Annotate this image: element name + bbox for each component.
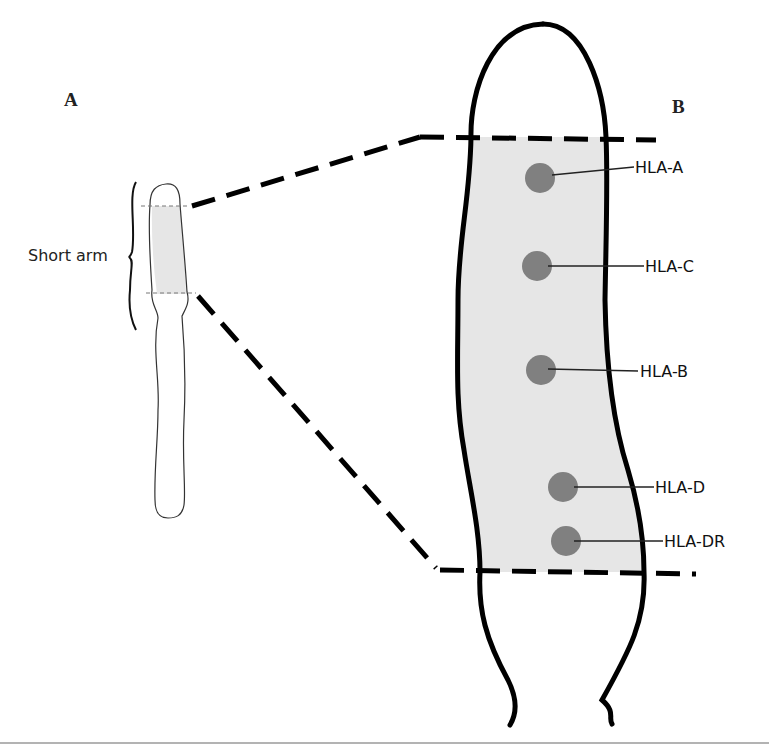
gene-dot-icon <box>525 163 555 193</box>
hla-chromosome-diagram: A B Short arm HLA-A HLA-C <box>0 0 769 748</box>
gene-dot-icon <box>522 251 552 281</box>
zoom-connector-bottom <box>198 296 436 568</box>
small-chromosome <box>141 184 196 518</box>
gene-label: HLA-D <box>655 478 705 497</box>
short-arm-brace <box>129 182 136 330</box>
gene-dot-icon <box>548 472 578 502</box>
zoom-connector-top <box>192 137 420 206</box>
gene-dot-icon <box>526 355 556 385</box>
gene-label: HLA-C <box>645 257 694 276</box>
gene-label: HLA-A <box>635 158 683 177</box>
mhc-top-boundary <box>420 137 656 140</box>
short-arm-label: Short arm <box>28 246 108 265</box>
panel-label-b: B <box>672 96 685 117</box>
panel-label-a: A <box>64 89 78 110</box>
gene-label: HLA-B <box>640 362 688 381</box>
gene-label: HLA-DR <box>664 532 725 551</box>
mhc-region <box>457 137 644 572</box>
